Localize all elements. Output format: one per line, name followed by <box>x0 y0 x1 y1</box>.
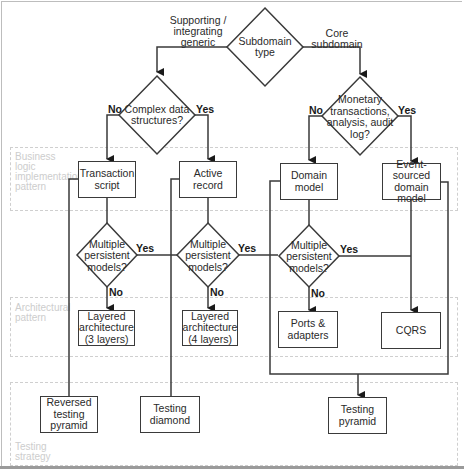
label-no-mp1: No <box>109 287 123 298</box>
decision-multiple-persistent-2: Multiple persistent models? <box>180 238 236 274</box>
label-yes-mp1: Yes <box>136 243 154 254</box>
node-transaction-script: Transaction script <box>78 161 136 198</box>
label-yes-mp2: Yes <box>238 243 256 254</box>
decision-monetary: Monetary transactions, analysis, audit l… <box>322 94 398 140</box>
edge-label-core: Core subdomain <box>310 28 364 50</box>
label-yes-monetary: Yes <box>398 105 416 116</box>
node-testing-diamond: Testing diamond <box>140 396 200 433</box>
label-no-complex: No <box>108 104 122 115</box>
decision-complex-data: Complex data structures? <box>124 97 190 133</box>
node-cqrs: CQRS <box>381 312 441 349</box>
edge-label-supporting: Supporting / integrating generic <box>166 15 230 48</box>
node-layered-3: Layered architecture (3 layers) <box>78 310 135 346</box>
decision-multiple-persistent-1: Multiple persistent models? <box>80 238 134 274</box>
label-yes-mp3: Yes <box>340 244 358 255</box>
node-reversed-testing-pyramid: Reversed testing pyramid <box>40 396 98 433</box>
node-domain-model: Domain model <box>280 163 338 200</box>
decision-multiple-persistent-3: Multiple persistent models? <box>282 239 336 275</box>
node-testing-pyramid: Testing pyramid <box>328 397 387 434</box>
label-no-monetary: No <box>309 105 323 116</box>
label-yes-complex: Yes <box>196 104 214 115</box>
decision-subdomain-type: Subdomain type <box>232 30 298 64</box>
node-ports-adapters: Ports & adapters <box>278 311 338 348</box>
node-layered-4: Layered architecture (4 layers) <box>182 310 238 346</box>
label-no-mp2: No <box>210 287 224 298</box>
node-event-sourced-domain-model: Event-sourced domain model <box>382 163 441 200</box>
label-no-mp3: No <box>311 288 325 299</box>
node-active-record: Active record <box>179 161 237 198</box>
